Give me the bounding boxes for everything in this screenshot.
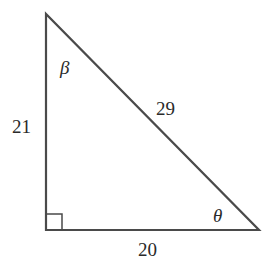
triangle-figure bbox=[0, 0, 278, 271]
side-hypotenuse-label: 29 bbox=[156, 99, 175, 118]
triangle-diagram: β 21 29 θ 20 bbox=[0, 0, 278, 271]
right-triangle bbox=[46, 14, 259, 230]
angle-beta-label: β bbox=[60, 58, 69, 77]
side-vertical-label: 21 bbox=[12, 117, 31, 136]
right-angle-marker bbox=[46, 214, 62, 230]
angle-theta-label: θ bbox=[213, 206, 222, 225]
side-horizontal-label: 20 bbox=[138, 240, 157, 259]
